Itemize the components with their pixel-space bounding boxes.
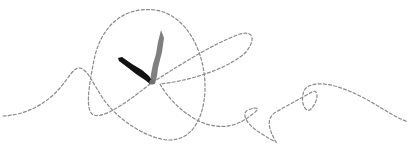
minute-hand-icon [150, 30, 164, 84]
clock-hub [149, 79, 154, 84]
clock-scribble-illustration [0, 0, 409, 156]
hour-hand-icon [118, 57, 153, 84]
clock-hands [0, 0, 409, 156]
